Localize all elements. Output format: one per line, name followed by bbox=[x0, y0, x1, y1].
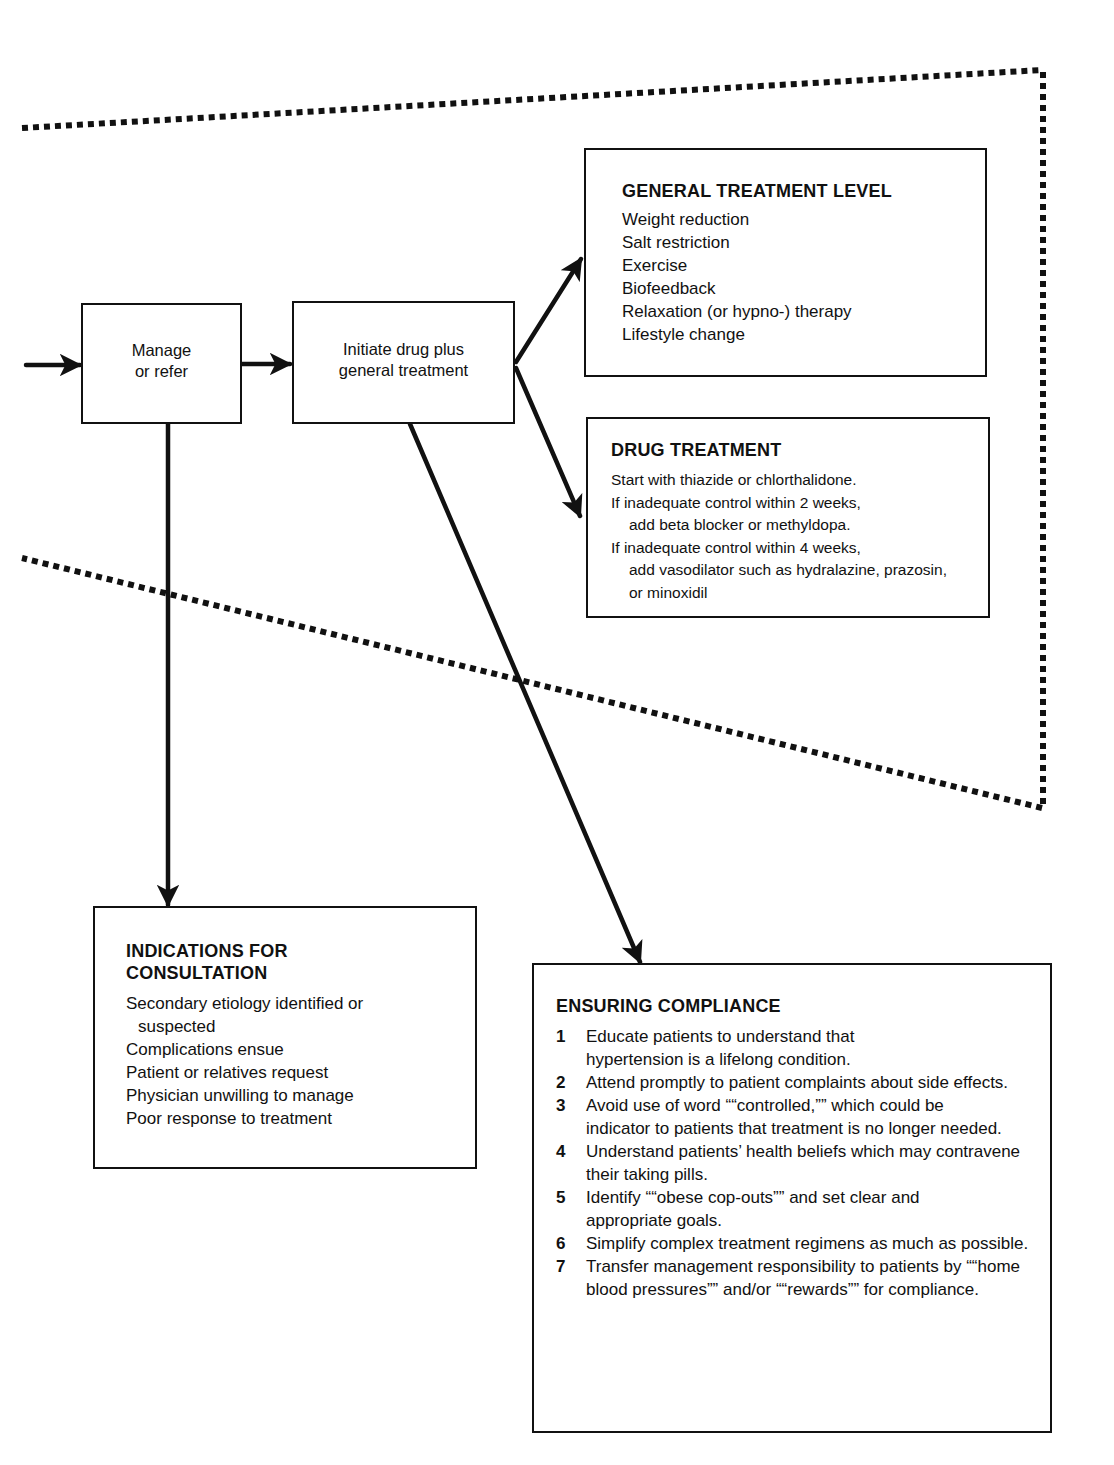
drug-treatment-list: Start with thiazide or chlorthalidone. I… bbox=[611, 469, 988, 604]
list-item: Secondary etiology identified orsuspecte… bbox=[126, 992, 475, 1038]
list-item: Exercise bbox=[622, 254, 985, 277]
list-item: Lifestyle change bbox=[622, 323, 985, 346]
list-item: 3Avoid use of word ““controlled,”” which… bbox=[556, 1094, 1050, 1140]
general-treatment-box: GENERAL TREATMENT LEVEL Weight reduction… bbox=[584, 148, 987, 377]
list-item: 2Attend promptly to patient complaints a… bbox=[556, 1071, 1050, 1094]
list-item: Salt restriction bbox=[622, 231, 985, 254]
list-item: Physician unwilling to manage bbox=[126, 1084, 475, 1107]
general-treatment-list: Weight reduction Salt restriction Exerci… bbox=[622, 208, 985, 346]
list-item: Biofeedback bbox=[622, 277, 985, 300]
list-item: Start with thiazide or chlorthalidone. bbox=[611, 469, 988, 492]
list-item: 6Simplify complex treatment regimens as … bbox=[556, 1232, 1050, 1255]
compliance-box: ENSURING COMPLIANCE 1Educate patients to… bbox=[532, 963, 1052, 1433]
manage-box-line2: or refer bbox=[135, 361, 188, 382]
list-item: 4Understand patients’ health beliefs whi… bbox=[556, 1140, 1050, 1186]
list-item: Patient or relatives request bbox=[126, 1061, 475, 1084]
initiate-box-line1: Initiate drug plus bbox=[343, 339, 464, 360]
list-item: 1Educate patients to understand that hyp… bbox=[556, 1025, 1050, 1071]
indications-list: Secondary etiology identified orsuspecte… bbox=[126, 992, 475, 1130]
list-item: Relaxation (or hypno-) therapy bbox=[622, 300, 985, 323]
initiate-treatment-box: Initiate drug plus general treatment bbox=[292, 301, 515, 424]
list-item: If inadequate control within 2 weeks,add… bbox=[611, 492, 988, 537]
initiate-to-general-arrow bbox=[516, 259, 581, 362]
list-item: Complications ensue bbox=[126, 1038, 475, 1061]
list-item: If inadequate control within 4 weeks,add… bbox=[611, 537, 988, 605]
list-item: Poor response to treatment bbox=[126, 1107, 475, 1130]
compliance-list: 1Educate patients to understand that hyp… bbox=[556, 1025, 1050, 1301]
manage-or-refer-box: Manage or refer bbox=[81, 303, 242, 424]
list-item: Weight reduction bbox=[622, 208, 985, 231]
drug-treatment-box: DRUG TREATMENT Start with thiazide or ch… bbox=[586, 417, 990, 618]
list-item: 5Identify ““obese cop-outs”” and set cle… bbox=[556, 1186, 1050, 1232]
general-treatment-title: GENERAL TREATMENT LEVEL bbox=[622, 180, 985, 202]
manage-box-line1: Manage bbox=[132, 340, 192, 361]
initiate-to-drug-arrow bbox=[516, 368, 580, 516]
drug-treatment-title: DRUG TREATMENT bbox=[611, 439, 988, 461]
indications-box: INDICATIONS FOR CONSULTATION Secondary e… bbox=[93, 906, 477, 1169]
initiate-box-line2: general treatment bbox=[339, 360, 468, 381]
compliance-title: ENSURING COMPLIANCE bbox=[556, 995, 1050, 1017]
indications-title: INDICATIONS FOR CONSULTATION bbox=[126, 940, 475, 984]
list-item: 7Transfer management responsibility to p… bbox=[556, 1255, 1050, 1301]
